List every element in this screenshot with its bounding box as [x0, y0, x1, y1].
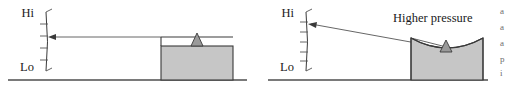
margin-text-line: a [500, 22, 504, 32]
higher-pressure-label: Higher pressure [393, 11, 473, 25]
pressure-arrow-head-left [48, 34, 56, 40]
gauge-tick [46, 68, 52, 71]
gauge-tick [46, 9, 52, 12]
margin-text-line: i [500, 68, 503, 78]
gauge-arc-left [46, 12, 48, 71]
gauge-high-label-left: Hi [22, 6, 35, 20]
cropped-body-text: a a a p i [500, 6, 505, 78]
gauge-low-label-right: Lo [280, 60, 294, 74]
gauge-tick [306, 68, 312, 71]
gauge-high-label-right: Hi [282, 6, 295, 20]
margin-text-line: a [500, 38, 504, 48]
margin-text-line: a [500, 6, 504, 16]
vessel-left [161, 46, 233, 80]
figure-canvas: Hi Lo [0, 0, 510, 96]
surface-pointer-left [191, 33, 203, 46]
high-pressure-panel: Hi Lo Higher pressure [268, 6, 488, 80]
margin-text-line: p [500, 54, 505, 64]
pressure-gauge-figure: Hi Lo [0, 0, 510, 96]
gauge-tick [306, 9, 312, 12]
gauge-low-label-left: Lo [20, 60, 34, 74]
low-pressure-panel: Hi Lo [8, 6, 247, 80]
gauge-ticks-left [40, 9, 52, 71]
gauge-arc-right [306, 12, 308, 71]
gauge-ticks-right [300, 9, 312, 71]
pressure-arrow-head-right [308, 22, 317, 28]
